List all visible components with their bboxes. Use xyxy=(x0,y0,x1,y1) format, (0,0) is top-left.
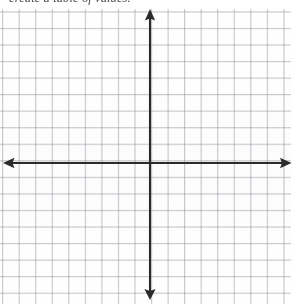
x-axis-group xyxy=(3,158,292,168)
coordinate-axes xyxy=(0,0,297,304)
worksheet-page: create a table of values. xyxy=(0,0,297,304)
y-axis-group xyxy=(144,9,155,300)
